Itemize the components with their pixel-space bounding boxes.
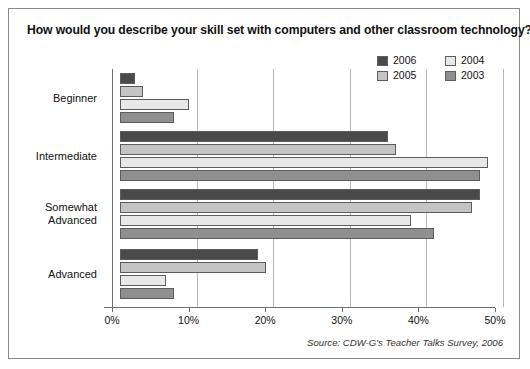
gridline-30 <box>350 69 351 307</box>
gridline-50 <box>503 69 504 307</box>
legend-label-2006: 2006 <box>393 55 416 66</box>
axis-tick-label: 10% <box>178 314 199 326</box>
axis-tick-label: 40% <box>408 314 429 326</box>
bar[interactable] <box>120 144 396 155</box>
bar[interactable] <box>120 288 174 299</box>
bar[interactable] <box>120 157 488 168</box>
bar[interactable] <box>120 86 143 97</box>
bar[interactable] <box>120 170 480 181</box>
legend-label-2004: 2004 <box>461 55 484 66</box>
axis-tick <box>265 308 266 312</box>
page-title: How would you describe your skill set wi… <box>27 23 505 37</box>
bar[interactable] <box>120 215 411 226</box>
axis-tick <box>418 308 419 312</box>
axis-tick <box>342 308 343 312</box>
bar[interactable] <box>120 228 434 239</box>
axis-tick-label: 20% <box>255 314 276 326</box>
axis-tick-label: 30% <box>331 314 352 326</box>
axis-tick-label: 0% <box>104 314 119 326</box>
axis-tick <box>112 308 113 312</box>
legend-swatch-2004 <box>445 56 456 66</box>
category-label: Advanced <box>11 268 97 281</box>
category-label: Somewhat Advanced <box>11 201 97 227</box>
bar[interactable] <box>120 262 266 273</box>
value-axis-bottom-line <box>104 307 495 308</box>
gridline-40 <box>426 69 427 307</box>
bar[interactable] <box>120 275 166 286</box>
bar[interactable] <box>120 202 472 213</box>
gridline-20 <box>273 69 274 307</box>
legend-item-2004: 2004 <box>445 53 503 68</box>
bar[interactable] <box>120 99 189 110</box>
bar[interactable] <box>120 73 135 84</box>
category-label: Intermediate <box>11 150 97 163</box>
chart-figure: How would you describe your skill set wi… <box>8 8 520 359</box>
source-note: Source: CDW-G's Teacher Talks Survey, 20… <box>307 337 503 348</box>
category-axis-labels: BeginnerIntermediateSomewhat AdvancedAdv… <box>9 69 97 307</box>
plot-area <box>104 69 486 307</box>
bar[interactable] <box>120 249 258 260</box>
bar[interactable] <box>120 112 174 123</box>
bar[interactable] <box>120 131 388 142</box>
bars-container <box>112 69 494 307</box>
category-label: Beginner <box>11 92 97 105</box>
bar[interactable] <box>120 189 480 200</box>
axis-tick <box>189 308 190 312</box>
legend-item-2006: 2006 <box>377 53 435 68</box>
axis-tick-label: 50% <box>484 314 505 326</box>
legend-swatch-2006 <box>377 56 388 66</box>
axis-tick <box>495 308 496 312</box>
